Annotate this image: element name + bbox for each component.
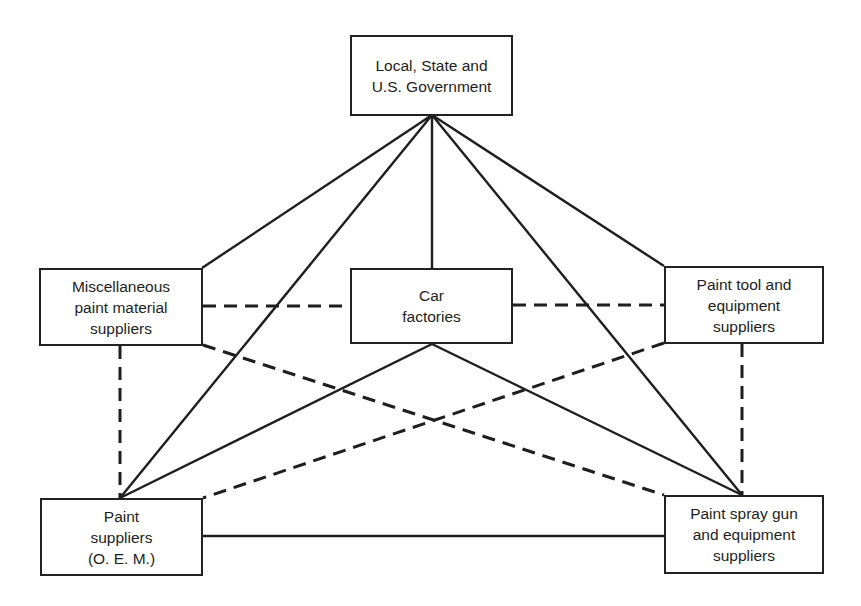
edge-government-to-tool-suppliers xyxy=(432,115,664,266)
node-paint-tool-suppliers: Paint tool and equipment suppliers xyxy=(664,266,824,344)
node-car-factories: Car factories xyxy=(350,268,513,344)
edge-government-to-misc-suppliers xyxy=(202,115,432,268)
node-misc-paint-material-suppliers: Miscellaneous paint material suppliers xyxy=(39,268,203,346)
node-spray-gun-suppliers: Paint spray gun and equipment suppliers xyxy=(664,495,824,574)
node-government: Local, State and U.S. Government xyxy=(350,35,513,116)
node-paint-suppliers-oem: Paint suppliers (O. E. M.) xyxy=(40,498,203,576)
edge-car-factories-to-spray-gun-suppliers xyxy=(432,344,742,495)
